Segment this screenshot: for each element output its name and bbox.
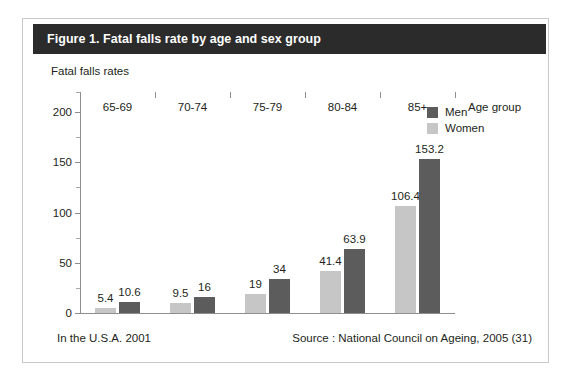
chart-plot-area: Fatal falls rates Men Women 050100150200…: [23, 54, 548, 326]
y-axis-line: [80, 92, 81, 314]
x-category-label-65-69: 65-69: [103, 101, 132, 113]
y-minor-tick: [76, 288, 80, 289]
bar-value-women-85+: 106.4: [391, 190, 420, 202]
y-minor-tick: [76, 137, 80, 138]
bar-men-85+: [419, 159, 440, 313]
bar-value-men-85+: 153.2: [415, 143, 444, 155]
x-axis-tick: [155, 92, 156, 98]
figure-footer: In the U.S.A. 2001 Source : National Cou…: [23, 332, 548, 348]
bar-value-women-75-79: 19: [249, 278, 262, 290]
x-axis-tick: [455, 92, 456, 98]
x-category-label-70-74: 70-74: [178, 101, 207, 113]
y-major-tick: [75, 263, 81, 264]
x-category-label-80-84: 80-84: [328, 101, 357, 113]
bar-men-65-69: [119, 302, 140, 313]
y-major-tick: [75, 213, 81, 214]
y-tick-label: 100: [53, 207, 72, 219]
bar-women-75-79: [245, 294, 266, 313]
y-minor-tick: [76, 238, 80, 239]
bar-women-65-69: [95, 308, 116, 313]
y-major-tick: [75, 112, 81, 113]
bar-value-men-80-84: 63.9: [343, 233, 365, 245]
bar-value-men-65-69: 10.6: [118, 286, 140, 298]
bar-men-80-84: [344, 249, 365, 313]
y-minor-tick: [76, 187, 80, 188]
bar-men-75-79: [269, 279, 290, 313]
figure-title: Figure 1. Fatal falls rate by age and se…: [33, 32, 321, 46]
y-tick-label: 50: [59, 257, 72, 269]
chart-axes: 050100150200 65-6970-7475-7980-8485+ 5.4…: [80, 92, 455, 314]
x-category-label-85+: 85+: [408, 101, 428, 113]
bar-women-85+: [395, 206, 416, 313]
figure-frame: Figure 1. Fatal falls rate by age and se…: [22, 18, 549, 363]
x-axis-title: Age group: [468, 101, 521, 113]
bar-value-women-65-69: 5.4: [98, 292, 114, 304]
bar-men-70-74: [194, 297, 215, 313]
figure-source: Source : National Council on Ageing, 200…: [292, 332, 532, 344]
x-axis-tick: [380, 92, 381, 98]
y-tick-label: 150: [53, 156, 72, 168]
x-axis-line: [80, 313, 455, 314]
bar-value-men-75-79: 34: [273, 263, 286, 275]
x-category-label-75-79: 75-79: [253, 101, 282, 113]
y-major-tick: [75, 313, 81, 314]
y-axis-title: Fatal falls rates: [51, 65, 129, 77]
y-major-tick: [75, 162, 81, 163]
bar-value-men-70-74: 16: [198, 281, 211, 293]
y-tick-label: 200: [53, 106, 72, 118]
bar-value-women-80-84: 41.4: [319, 255, 341, 267]
figure-title-bar: Figure 1. Fatal falls rate by age and se…: [33, 24, 546, 54]
figure-note: In the U.S.A. 2001: [57, 332, 151, 344]
bar-women-70-74: [170, 303, 191, 313]
x-axis-tick: [305, 92, 306, 98]
x-axis-tick: [80, 92, 81, 98]
bar-women-80-84: [320, 271, 341, 313]
y-tick-label: 0: [66, 307, 72, 319]
x-axis-tick: [230, 92, 231, 98]
bar-value-women-70-74: 9.5: [173, 287, 189, 299]
